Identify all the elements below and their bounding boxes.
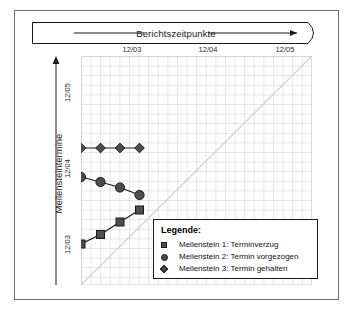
square-marker-icon: [161, 239, 175, 251]
y-tick-label: 12/03: [63, 230, 72, 260]
legend-item: Meilenstein 1: Terminverzug: [161, 239, 317, 251]
figure-root: Berichtszeitpunkte 12/03 12/04 12/05 12/…: [0, 0, 353, 314]
berichtszeitpunkte-banner: Berichtszeitpunkte: [32, 22, 320, 44]
legend-item-label: Meilenstein 2: Termin vorgezogen: [175, 251, 298, 263]
y-axis-title: Meilensteintermine: [53, 114, 64, 234]
circle-marker-icon: [161, 251, 175, 263]
legend-item: Meilenstein 3: Termin gehalten: [161, 263, 317, 275]
legend-item: Meilenstein 2: Termin vorgezogen: [161, 251, 317, 263]
y-tick-label: 12/04: [63, 154, 72, 184]
legend-title: Legende:: [161, 225, 317, 236]
diamond-marker-icon: [161, 263, 175, 275]
legend-item-label: Meilenstein 1: Terminverzug: [175, 239, 278, 251]
y-tick-label: 12/05: [63, 78, 72, 108]
legend-item-label: Meilenstein 3: Termin gehalten: [175, 263, 287, 275]
legend-box: Legende: Meilenstein 1: Terminverzug Mei…: [153, 219, 318, 279]
